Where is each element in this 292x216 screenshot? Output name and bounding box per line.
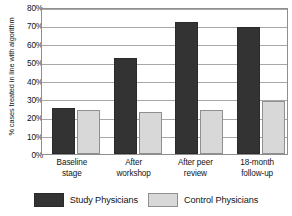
y-axis-tick-label: 70% [11, 21, 43, 31]
x-axis-tick-label: Afterworkshop [103, 158, 165, 179]
legend-item-control: Control Physicians [148, 193, 258, 207]
bar-group [166, 9, 228, 154]
x-axis-tick-labels: BaselinestageAfterworkshopAfter peerrevi… [41, 158, 288, 184]
legend-label-study: Study Physicians [70, 195, 138, 205]
chart-legend: Study Physicians Control Physicians [0, 190, 292, 210]
bar-study [52, 108, 75, 154]
bar-control [200, 110, 223, 154]
bar-group [42, 9, 104, 154]
bar-control [139, 112, 162, 154]
y-axis-tick-label: 0% [11, 150, 43, 160]
legend-item-study: Study Physicians [34, 193, 138, 207]
legend-swatch-study-icon [34, 193, 64, 207]
legend-label-control: Control Physicians [184, 195, 258, 205]
x-axis-tick-label: Baselinestage [41, 158, 103, 179]
bar-groups [42, 9, 287, 154]
x-axis-tick-label: 18-monthfollow-up [226, 158, 288, 179]
y-axis-tick-label: 50% [11, 58, 43, 68]
y-axis-tick-label: 40% [11, 77, 43, 87]
y-axis-tick-label: 20% [11, 113, 43, 123]
bar-control [262, 101, 285, 154]
bar-chart: % cases treated in line with algorithm 8… [0, 0, 292, 216]
y-axis-tick-label: 10% [11, 132, 43, 142]
bar-group [227, 9, 288, 154]
y-axis-tick-label: 30% [11, 95, 43, 105]
y-axis-tick-label: 80% [11, 3, 43, 13]
bar-group [104, 9, 166, 154]
x-axis-tick-label: After peerreview [165, 158, 227, 179]
legend-swatch-control-icon [148, 193, 178, 207]
bar-control [77, 110, 100, 154]
bar-study [175, 22, 198, 154]
y-axis-tick-label: 60% [11, 40, 43, 50]
bar-study [114, 58, 137, 154]
plot-area [41, 8, 288, 155]
bar-study [237, 27, 260, 154]
